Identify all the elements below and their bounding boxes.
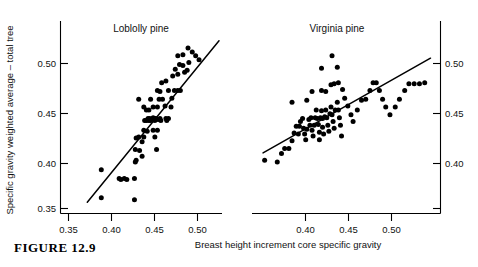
data-point — [339, 134, 344, 139]
data-point — [175, 53, 180, 58]
data-point — [323, 89, 328, 94]
data-point — [262, 158, 267, 163]
left-panel-y-tick-labels: 0.50 0.45 0.40 0.35 — [38, 58, 57, 214]
data-point — [170, 74, 175, 79]
data-point — [304, 98, 309, 103]
data-point — [319, 108, 324, 113]
left-panel-x-tick-labels: 0.35 0.40 0.45 0.50 — [59, 224, 207, 235]
data-point — [193, 53, 198, 58]
data-point — [326, 129, 331, 134]
data-point — [300, 116, 305, 121]
data-point — [331, 119, 336, 124]
data-point — [158, 118, 163, 123]
data-point — [314, 107, 319, 112]
right-panel-data-points — [262, 53, 427, 164]
data-point — [166, 88, 171, 93]
y-tick-label-050: 0.50 — [38, 58, 57, 69]
data-point — [338, 123, 343, 128]
left-panel-regression-line — [87, 41, 219, 202]
right-panel-regression-line — [263, 58, 430, 153]
data-point — [323, 107, 328, 112]
data-point — [319, 88, 324, 93]
left-panel-y-ticks — [61, 64, 69, 209]
data-point — [159, 80, 164, 85]
right-panel-x-tick-labels: 0.40 0.45 0.50 — [296, 224, 401, 235]
scatter-plot-figure: 0.50 0.45 0.40 0.35 0.35 0.40 0.45 0.50 … — [0, 0, 478, 267]
data-point — [337, 115, 342, 120]
y-tick-label-035: 0.35 — [38, 203, 57, 214]
data-point — [124, 177, 129, 182]
data-point — [136, 97, 141, 102]
data-point — [383, 105, 388, 110]
x-tick-label-040-right: 0.40 — [296, 224, 315, 235]
data-point — [148, 97, 153, 102]
x-axis-title: Breast height increment core specific gr… — [195, 239, 382, 250]
data-point — [132, 197, 137, 202]
data-point — [397, 97, 402, 102]
data-point — [363, 97, 368, 102]
x-tick-label-045: 0.45 — [145, 224, 164, 235]
data-point — [99, 195, 104, 200]
data-point — [152, 134, 157, 139]
y-tick-label-050-right: 0.50 — [445, 58, 464, 69]
data-point — [169, 105, 174, 110]
data-point — [173, 67, 178, 72]
data-point — [186, 60, 191, 65]
data-point — [412, 81, 417, 86]
data-point — [393, 105, 398, 110]
x-tick-label-045-right: 0.45 — [339, 224, 358, 235]
data-point — [134, 158, 139, 163]
figure-caption: FIGURE 12.9 — [14, 240, 96, 256]
data-point — [146, 107, 151, 112]
data-point — [340, 87, 345, 92]
data-point — [160, 97, 165, 102]
x-tick-label-040: 0.40 — [102, 224, 121, 235]
data-point — [175, 72, 180, 77]
data-point — [186, 46, 191, 51]
data-point — [290, 138, 295, 143]
data-point — [336, 80, 341, 85]
data-point — [422, 80, 427, 85]
figure-container: 0.50 0.45 0.40 0.35 0.35 0.40 0.45 0.50 … — [0, 0, 478, 267]
data-point — [317, 137, 322, 142]
data-point — [325, 123, 330, 128]
data-point — [197, 57, 202, 62]
data-point — [99, 167, 104, 172]
data-point — [286, 146, 291, 151]
right-panel-x-ticks — [306, 214, 392, 222]
y-tick-label-040-right: 0.40 — [445, 158, 464, 169]
data-point — [406, 81, 411, 86]
left-panel-x-ticks — [69, 214, 198, 222]
data-point — [330, 53, 335, 58]
data-point — [290, 100, 295, 105]
data-point — [311, 134, 316, 139]
data-point — [275, 160, 280, 165]
data-point — [303, 137, 308, 142]
data-point — [166, 116, 171, 121]
data-point — [351, 119, 356, 124]
data-point — [137, 148, 142, 153]
y-axis-title: Specific gravity weighted average – tota… — [4, 25, 15, 214]
data-point — [133, 147, 138, 152]
right-panel-y-ticks — [433, 64, 441, 209]
y-tick-label-040: 0.40 — [38, 158, 57, 169]
data-point — [387, 112, 392, 117]
data-point — [163, 78, 168, 83]
x-tick-label-050-right: 0.50 — [382, 224, 401, 235]
data-point — [374, 80, 379, 85]
data-point — [321, 132, 326, 137]
data-point — [155, 105, 160, 110]
left-panel-data-points — [99, 46, 202, 203]
data-point — [342, 96, 347, 101]
data-point — [320, 125, 325, 130]
data-point — [319, 66, 324, 71]
data-point — [180, 63, 185, 68]
data-point — [355, 107, 360, 112]
data-point — [417, 81, 422, 86]
data-point — [335, 100, 340, 105]
x-tick-label-035: 0.35 — [59, 224, 78, 235]
right-panel-y-tick-labels: 0.50 0.45 0.40 — [445, 58, 464, 169]
data-point — [402, 88, 407, 93]
right-panel-title: Virginia pine — [310, 23, 365, 34]
panel-virginia-pine: 0.50 0.45 0.40 0.40 0.45 0.50 Virginia p… — [252, 21, 464, 235]
